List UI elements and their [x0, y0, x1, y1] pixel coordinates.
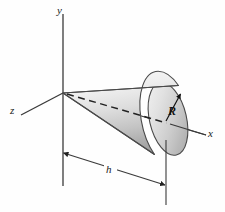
- z-axis-line: [21, 93, 63, 115]
- x-axis-label: x: [207, 127, 213, 139]
- y-axis-label: y: [56, 4, 62, 16]
- cone-diagram-svg: R h y x z: [0, 0, 225, 212]
- height-label: h: [106, 163, 112, 175]
- cone-figure: R h y x z: [0, 0, 225, 212]
- radius-label: R: [167, 104, 176, 118]
- z-axis-label: z: [9, 104, 15, 116]
